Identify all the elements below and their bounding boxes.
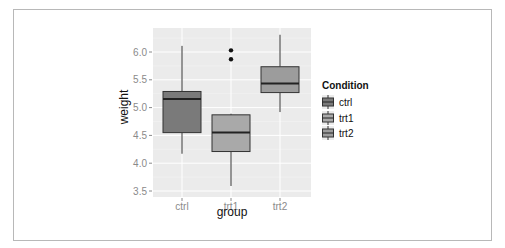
iqr-box bbox=[261, 67, 299, 93]
iqr-box bbox=[163, 91, 201, 132]
y-tick-label: 3.5 bbox=[133, 186, 147, 197]
y-tick-label: 4.0 bbox=[133, 158, 147, 169]
outlier-point bbox=[229, 57, 233, 61]
legend: Condition ctrltrt1trt2 bbox=[322, 80, 369, 140]
y-axis: 3.54.04.55.05.56.0 bbox=[133, 47, 152, 197]
legend-label: trt2 bbox=[339, 128, 354, 139]
y-tick-label: 6.0 bbox=[133, 47, 147, 58]
y-axis-title: weight bbox=[117, 89, 131, 125]
x-axis-title: group bbox=[217, 205, 248, 219]
outlier-point bbox=[229, 48, 233, 52]
legend-label: trt1 bbox=[339, 113, 354, 124]
legend-item-trt2: trt2 bbox=[322, 126, 354, 140]
x-tick-label: trt2 bbox=[273, 201, 288, 212]
legend-title: Condition bbox=[322, 80, 369, 91]
y-tick-label: 5.0 bbox=[133, 102, 147, 113]
y-tick-label: 4.5 bbox=[133, 130, 147, 141]
x-tick-label: ctrl bbox=[175, 201, 188, 212]
boxplot-chart: 3.54.04.55.05.56.0 ctrltrt1trt2 group we… bbox=[0, 0, 505, 248]
legend-item-trt1: trt1 bbox=[322, 111, 354, 125]
legend-label: ctrl bbox=[339, 97, 352, 108]
legend-item-ctrl: ctrl bbox=[322, 95, 352, 109]
y-tick-label: 5.5 bbox=[133, 74, 147, 85]
